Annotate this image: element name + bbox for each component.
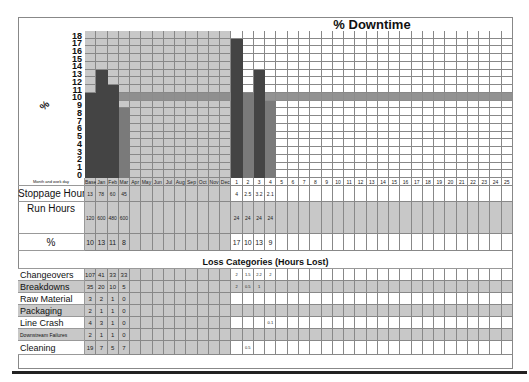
grid-cell: [130, 163, 141, 171]
grid-cell: [310, 170, 321, 178]
grid-cell: [367, 62, 378, 70]
grid-cell: [355, 54, 366, 62]
grid-cell: [108, 62, 119, 70]
grid-cell: [276, 116, 287, 124]
loss-cell: [423, 317, 434, 329]
grid-cell: [412, 170, 423, 178]
loss-cell: [344, 269, 355, 281]
loss-cell: [412, 305, 423, 317]
grid-cell: [141, 77, 152, 85]
grid-cell: [164, 70, 175, 78]
x-tick-label: Dec: [220, 178, 231, 186]
table-cell: 10: [243, 234, 254, 251]
grid-cell: [322, 77, 333, 85]
grid-cell: [423, 124, 434, 132]
x-tick-label: 1: [231, 178, 242, 186]
grid-cell: [288, 124, 299, 132]
loss-cell: [220, 341, 231, 355]
loss-cell: [175, 317, 186, 329]
loss-cell: 10: [108, 281, 119, 293]
grid-cell: [310, 132, 321, 140]
loss-cell: [231, 293, 242, 305]
grid-cell: [186, 139, 197, 147]
grid-cell: [412, 108, 423, 116]
grid-cell: [153, 39, 164, 47]
grid-cell: [243, 39, 254, 47]
grid-cell: [400, 124, 411, 132]
x-tick-label: Jan: [96, 178, 107, 186]
grid-cell: [389, 54, 400, 62]
grid-cell: [153, 116, 164, 124]
grid-cell: [367, 155, 378, 163]
grid-cell: [479, 170, 490, 178]
loss-cell: [288, 329, 299, 341]
loss-cell: [389, 317, 400, 329]
grid-cell: [322, 31, 333, 39]
loss-cell: [288, 293, 299, 305]
grid-cell: [434, 46, 445, 54]
grid-cell: [490, 124, 501, 132]
table-cell: [490, 234, 501, 251]
grid-cell: [333, 85, 344, 93]
grid-cell: [141, 147, 152, 155]
grid-cell: [198, 170, 209, 178]
grid-cell: [434, 62, 445, 70]
grid-cell: [333, 31, 344, 39]
y-tick-label: 12: [60, 78, 82, 86]
grid-cell: [468, 124, 479, 132]
table-cell: [130, 202, 141, 234]
grid-cell: [468, 132, 479, 140]
loss-cell: [175, 329, 186, 341]
grid-cell: [468, 70, 479, 78]
grid-cell: [322, 163, 333, 171]
grid-cell: [310, 62, 321, 70]
grid-cell: [130, 139, 141, 147]
grid-cell: [378, 163, 389, 171]
grid-cell: [96, 31, 107, 39]
grid-cell: [423, 139, 434, 147]
loss-cell: [310, 341, 321, 355]
grid-cell: [333, 170, 344, 178]
loss-cell: 1: [96, 305, 107, 317]
grid-cell: [85, 31, 96, 39]
grid-cell: [130, 39, 141, 47]
grid-cell: [186, 124, 197, 132]
table-cell: [423, 186, 434, 202]
loss-cell: [412, 317, 423, 329]
loss-cell: [490, 269, 501, 281]
x-tick-label: 3: [254, 178, 265, 186]
grid-cell: [85, 85, 96, 93]
grid-cell: [276, 101, 287, 109]
grid-cell: [423, 31, 434, 39]
loss-cell: [220, 269, 231, 281]
loss-cell: [198, 329, 209, 341]
row-label-percent: %: [18, 234, 85, 251]
loss-cell: [423, 305, 434, 317]
x-tick-label: 19: [434, 178, 445, 186]
loss-cell: [423, 269, 434, 281]
grid-cell: [231, 31, 242, 39]
loss-cell: [378, 341, 389, 355]
y-tick-label: 13: [60, 70, 82, 78]
grid-cell: [198, 101, 209, 109]
x-tick-label: 23: [479, 178, 490, 186]
loss-cell: [400, 281, 411, 293]
grid-cell: [310, 155, 321, 163]
loss-cell: [288, 341, 299, 355]
grid-cell: [423, 155, 434, 163]
loss-cell: [322, 329, 333, 341]
loss-cell: 41: [96, 269, 107, 281]
grid-cell: [164, 31, 175, 39]
loss-cell: [299, 293, 310, 305]
grid-cell: [254, 31, 265, 39]
grid-cell: [299, 85, 310, 93]
grid-cell: [344, 77, 355, 85]
grid-cell: [175, 31, 186, 39]
grid-cell: [479, 39, 490, 47]
table-cell: 2.1: [265, 186, 276, 202]
grid-cell: [502, 70, 513, 78]
grid-cell: [344, 31, 355, 39]
loss-cell: [355, 293, 366, 305]
loss-cell: [344, 341, 355, 355]
table-cell: [333, 186, 344, 202]
